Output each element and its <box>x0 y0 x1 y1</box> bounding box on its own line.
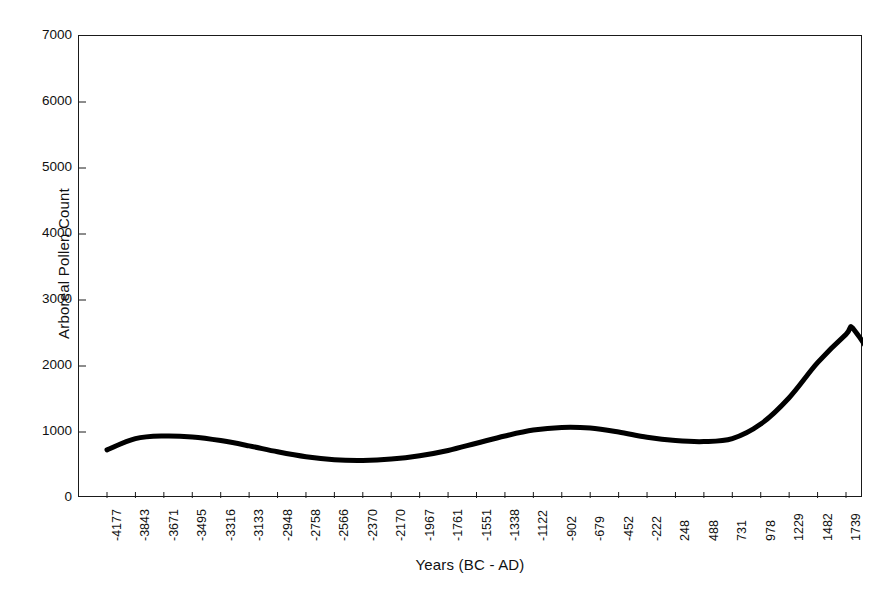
x-tick-label: -3133 <box>253 509 266 541</box>
x-tick-label: -902 <box>566 516 579 541</box>
y-tick-label: 2000 <box>28 358 72 372</box>
x-tick-label: -1761 <box>452 509 465 541</box>
y-axis-tick-labels: 01000200030004000500060007000 <box>22 0 72 598</box>
x-tick-label: 1482 <box>822 513 835 541</box>
x-tick-label: -2758 <box>310 509 323 541</box>
x-tick-label: -3316 <box>225 509 238 541</box>
x-tick-label: -1551 <box>481 509 494 541</box>
x-tick-label: 248 <box>679 520 692 541</box>
x-tick-label: -2170 <box>395 509 408 541</box>
y-tick-label: 6000 <box>28 94 72 108</box>
y-tick-label: 3000 <box>28 292 72 306</box>
x-tick-label: -452 <box>623 516 636 541</box>
x-tick-label: -4177 <box>111 509 124 541</box>
y-tick-label: 7000 <box>28 28 72 42</box>
x-tick-label: 978 <box>765 520 778 541</box>
data-series-line <box>107 327 863 465</box>
x-tick-label: -2566 <box>338 509 351 541</box>
plot-area <box>78 35 862 497</box>
plot-canvas <box>79 36 863 498</box>
x-tick-label: -1122 <box>537 510 550 541</box>
chart-figure: Arboreal Pollen Count 010002000300040005… <box>0 0 894 598</box>
x-tick-label: 731 <box>736 520 749 541</box>
x-tick-label: 488 <box>708 520 721 541</box>
figure-caption <box>0 583 894 598</box>
y-tick-label: 1000 <box>28 424 72 438</box>
y-tick-label: 5000 <box>28 160 72 174</box>
x-tick-label: -2948 <box>282 509 295 541</box>
x-tick-label: -2370 <box>367 509 380 541</box>
x-tick-label: -222 <box>651 516 664 541</box>
x-tick-label: -3495 <box>196 509 209 541</box>
y-tick-label: 0 <box>28 490 72 504</box>
y-tick-label: 4000 <box>28 226 72 240</box>
x-tick-label: -1338 <box>509 509 522 541</box>
x-axis-title: Years (BC - AD) <box>78 556 862 573</box>
x-tick-label: -3843 <box>139 509 152 541</box>
x-tick-label: -1967 <box>424 509 437 541</box>
x-tick-label: 1229 <box>793 513 806 541</box>
x-tick-label: 1739 <box>850 513 863 541</box>
x-axis-tick-labels: -4177-3843-3671-3495-3316-3133-2948-2758… <box>78 497 862 557</box>
x-tick-label: -3671 <box>168 509 181 541</box>
x-tick-label: -679 <box>594 516 607 541</box>
